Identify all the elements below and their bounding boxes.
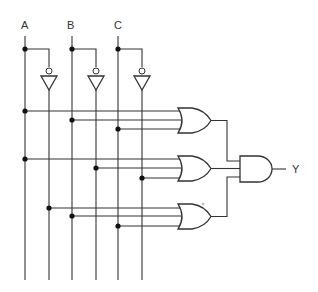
- junction-dot: [93, 165, 98, 170]
- tap-a-to-inverter: [25, 49, 49, 67]
- junction-dot: [139, 175, 144, 180]
- not-gate-a: [41, 68, 57, 90]
- junction-dot: [115, 126, 120, 131]
- not-gate-b: [88, 68, 104, 90]
- or-gate-1: [178, 108, 211, 133]
- junction-dot: [115, 46, 120, 51]
- junction-dot: [22, 108, 27, 113]
- tap-c-to-inverter: [118, 49, 142, 67]
- junction-dot: [69, 117, 74, 122]
- artifact-speck: [202, 203, 205, 206]
- or1-output-wire: [211, 121, 240, 162]
- and-gate: [240, 156, 272, 182]
- tap-b-to-inverter: [72, 49, 96, 67]
- junction-dot: [69, 213, 74, 218]
- logic-circuit-diagram: A B C: [0, 0, 318, 292]
- not-gate-c: [134, 68, 150, 90]
- or3-output-wire: [211, 177, 240, 217]
- input-label-b: B: [67, 19, 74, 31]
- junction-dot: [46, 205, 51, 210]
- output-label-y: Y: [292, 163, 300, 175]
- or-gate-2: [178, 156, 211, 181]
- junction-dot: [22, 156, 27, 161]
- or-gate-3: [178, 204, 211, 229]
- input-label-a: A: [21, 19, 29, 31]
- input-label-c: C: [114, 19, 122, 31]
- junction-dot: [69, 46, 74, 51]
- junction-dot: [22, 46, 27, 51]
- junction-dot: [115, 223, 120, 228]
